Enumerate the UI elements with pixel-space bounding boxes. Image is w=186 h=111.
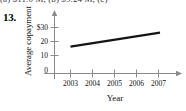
- data-series-average-copayment: [71, 33, 161, 47]
- y-axis: [52, 10, 57, 79]
- x-axis-title: Year: [54, 93, 176, 103]
- y-axis-title: Average copayment: [23, 0, 33, 87]
- chart-figure: $30 20 10 0 2003 2004 2005 2006 2007 Ave…: [0, 0, 186, 111]
- x-axis: [44, 71, 182, 76]
- x-tick-label-2007: 2007: [144, 79, 173, 88]
